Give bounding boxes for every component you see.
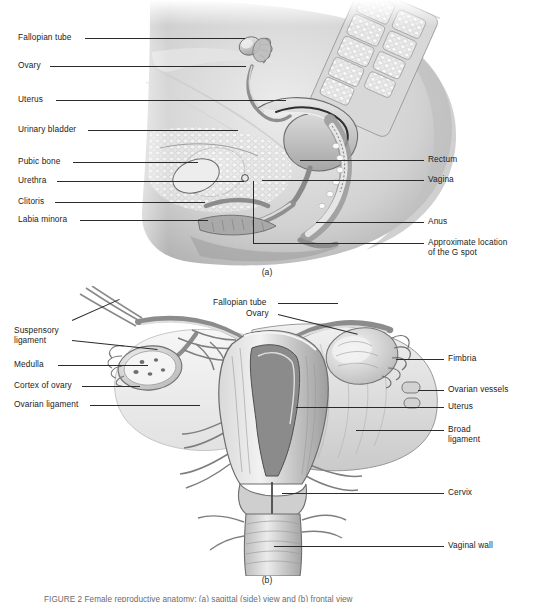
leader-labia-minora-a — [80, 220, 208, 221]
label-vaginal-wall: Vaginal wall — [448, 541, 493, 551]
label-uterus-b: Uterus — [448, 402, 473, 412]
label-vagina-a: Vagina — [428, 175, 454, 185]
panel-a-letter: (a) — [247, 267, 287, 277]
leader-gspot-a — [253, 243, 424, 244]
leader-urethra-a — [57, 181, 244, 182]
label-pubic-bone-a: Pubic bone — [18, 157, 61, 167]
leader-ovarian-ligament — [90, 405, 200, 406]
label-uterus-a: Uterus — [18, 95, 43, 105]
label-cervix: Cervix — [448, 488, 472, 498]
leader-urinary-bladder-a — [88, 130, 238, 131]
vagina-b — [245, 514, 302, 576]
leader-uterus-a — [56, 100, 286, 101]
suspensory-ligament — [80, 286, 142, 326]
label-fallopian-tube-b: Fallopian tube — [213, 298, 267, 308]
panel-b-letter: (b) — [247, 575, 287, 585]
leader-anus-a — [316, 222, 424, 223]
label-fallopian-tube-a: Fallopian tube — [18, 33, 72, 43]
figure-container: Fallopian tube Ovary Uterus Urinary blad… — [0, 0, 534, 602]
label-cortex-of-ovary: Cortex of ovary — [14, 381, 72, 391]
label-ovary-a: Ovary — [18, 61, 41, 71]
label-gspot-line2-a: of the G spot — [428, 248, 477, 258]
leader-fallopian-tube-b — [278, 303, 338, 304]
leader-ovary-a — [50, 66, 246, 67]
label-fimbria: Fimbria — [448, 354, 476, 364]
leader-cortex-of-ovary — [82, 386, 140, 387]
leader-vaginal-wall — [274, 546, 444, 547]
leader-cervix — [282, 493, 444, 494]
sagittal-view-svg — [0, 0, 534, 268]
label-medulla: Medulla — [14, 360, 44, 370]
label-urinary-bladder-a: Urinary bladder — [18, 125, 76, 135]
label-labia-minora-a: Labia minora — [18, 215, 67, 225]
leader-medulla — [58, 365, 148, 366]
leader-vagina-a — [262, 180, 424, 181]
cervix-b — [238, 482, 306, 516]
panel-a-illustration — [0, 0, 534, 268]
label-ovary-b: Ovary — [246, 309, 269, 319]
leader-clitoris-a — [55, 202, 205, 203]
label-ovarian-ligament: Ovarian ligament — [14, 400, 78, 410]
leader-fimbria — [396, 359, 444, 360]
leader-rectum-a — [300, 160, 424, 161]
leader-uterus-b — [296, 407, 444, 408]
label-urethra-a: Urethra — [18, 176, 46, 186]
leader-broad-ligament — [356, 430, 444, 431]
label-ovarian-vessels: Ovarian vessels — [448, 385, 509, 395]
leader-pubic-bone-a — [73, 162, 198, 163]
label-anus-a: Anus — [428, 217, 447, 227]
leader-fallopian-tube-a — [85, 38, 245, 39]
label-broad-ligament-line2: ligament — [448, 435, 480, 445]
figure-caption: FIGURE 2 Female reproductive anatomy: (a… — [44, 595, 514, 602]
label-clitoris-a: Clitoris — [18, 197, 44, 207]
label-suspensory-ligament-line2: ligament — [14, 336, 46, 346]
leader-ovarian-vessels — [418, 390, 444, 391]
leader-gspot-riser-a — [253, 181, 254, 243]
label-rectum-a: Rectum — [428, 155, 457, 165]
